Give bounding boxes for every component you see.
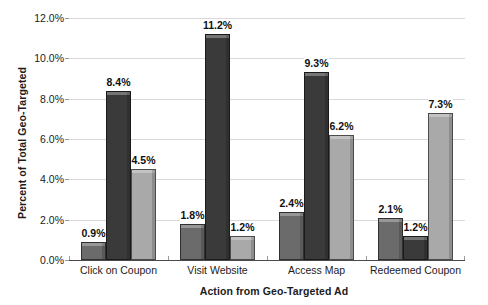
- bar-value-label: 8.4%: [106, 76, 132, 88]
- x-tick-label: Access Map: [267, 264, 366, 276]
- x-tick-mark: [267, 256, 268, 260]
- x-tick-mark: [464, 256, 465, 260]
- bar-value-label: 1.2%: [230, 221, 256, 233]
- y-tick-label: 6.0%: [6, 133, 64, 145]
- bar-right-shading: [350, 136, 353, 259]
- bar[interactable]: 1.2%: [403, 236, 428, 260]
- y-tick-label: 10.0%: [6, 52, 64, 64]
- y-tick-label: 12.0%: [6, 12, 64, 24]
- bar[interactable]: 2.4%: [279, 212, 304, 260]
- bar-value-label: 9.3%: [304, 57, 330, 69]
- x-tick-mark: [69, 256, 70, 260]
- bar-value-label: 0.9%: [81, 227, 107, 239]
- bar-right-shading: [127, 92, 130, 259]
- bar-right-shading: [102, 243, 105, 259]
- bar-group: 0.9%8.4%4.5%Click on Coupon: [69, 18, 168, 260]
- bar-value-label: 1.2%: [403, 221, 429, 233]
- bar-value-label: 4.5%: [131, 154, 157, 166]
- bar[interactable]: 0.9%: [81, 242, 106, 260]
- x-tick-mark: [168, 256, 169, 260]
- y-tick-label: 0.0%: [6, 254, 64, 266]
- bar-right-shading: [152, 170, 155, 259]
- bar-value-label: 2.4%: [279, 197, 305, 209]
- x-tick-label: Click on Coupon: [69, 264, 168, 276]
- x-tick-label: Redeemed Coupon: [366, 264, 465, 276]
- x-tick-mark: [366, 256, 367, 260]
- bar[interactable]: 1.2%: [230, 236, 255, 260]
- bar-right-shading: [300, 213, 303, 259]
- y-tick-label: 8.0%: [6, 93, 64, 105]
- bar[interactable]: 9.3%: [304, 72, 329, 260]
- bar-chart: Percent of Total Geo-Targeted 0.0%2.0%4.…: [0, 0, 488, 305]
- bar-right-shading: [449, 114, 452, 259]
- bar-group: 1.8%11.2%1.2%Visit Website: [168, 18, 267, 260]
- bar[interactable]: 6.2%: [329, 135, 354, 260]
- bar-value-label: 7.3%: [428, 98, 454, 110]
- bar[interactable]: 4.5%: [131, 169, 156, 260]
- bar[interactable]: 8.4%: [106, 91, 131, 260]
- bar-group: 2.1%1.2%7.3%Redeemed Coupon: [366, 18, 465, 260]
- bar-value-label: 2.1%: [378, 203, 404, 215]
- bar-right-shading: [325, 73, 328, 259]
- y-tick-mark: [65, 260, 69, 261]
- plot-area: 0.0%2.0%4.0%6.0%8.0%10.0%12.0%0.9%8.4%4.…: [69, 18, 465, 260]
- bar-value-label: 1.8%: [180, 209, 206, 221]
- bar[interactable]: 2.1%: [378, 218, 403, 260]
- y-tick-label: 4.0%: [6, 173, 64, 185]
- bar[interactable]: 1.8%: [180, 224, 205, 260]
- x-axis-title: Action from Geo-Targeted Ad: [68, 285, 480, 297]
- bar-right-shading: [251, 237, 254, 259]
- bar-value-label: 11.2%: [202, 19, 233, 31]
- bar[interactable]: 11.2%: [205, 34, 230, 260]
- axis-baseline: [69, 260, 465, 261]
- bar-group: 2.4%9.3%6.2%Access Map: [267, 18, 366, 260]
- x-tick-label: Visit Website: [168, 264, 267, 276]
- bar[interactable]: 7.3%: [428, 113, 453, 260]
- bar-right-shading: [424, 237, 427, 259]
- bar-value-label: 6.2%: [329, 120, 355, 132]
- y-tick-label: 2.0%: [6, 214, 64, 226]
- bar-right-shading: [201, 225, 204, 259]
